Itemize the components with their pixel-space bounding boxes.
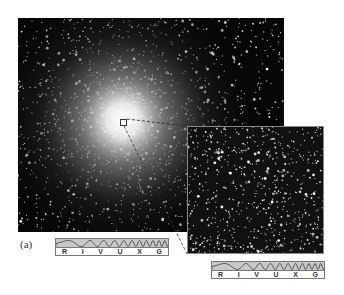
band-v: V xyxy=(98,248,103,256)
band-i: I xyxy=(238,271,240,279)
band-x: X xyxy=(293,271,298,279)
inset-zoom-image xyxy=(187,126,324,254)
wave-icon xyxy=(56,239,168,248)
band-i: I xyxy=(82,248,84,256)
band-r: R xyxy=(62,248,67,256)
zoom-region-marker xyxy=(120,119,127,126)
band-u: U xyxy=(274,271,279,279)
band-u: U xyxy=(118,248,123,256)
panel-label: (a) xyxy=(20,238,32,250)
band-x: X xyxy=(137,248,142,256)
band-v: V xyxy=(254,271,259,279)
band-g: G xyxy=(313,271,318,279)
spectrum-bar-inset: R I V U X G xyxy=(211,261,325,279)
inset-star-field xyxy=(188,127,324,254)
spectrum-bar-main: R I V U X G xyxy=(55,238,169,256)
wave-icon xyxy=(212,262,324,271)
band-g: G xyxy=(157,248,162,256)
band-r: R xyxy=(218,271,223,279)
